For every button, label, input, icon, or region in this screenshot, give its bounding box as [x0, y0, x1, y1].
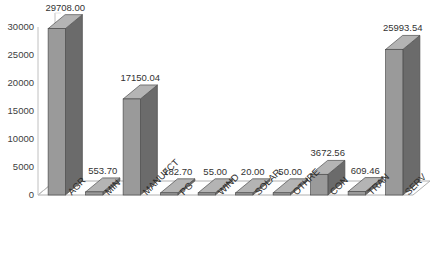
y-tick-25000: 25000 [0, 50, 34, 60]
y-tick-30000: 30000 [0, 22, 34, 32]
bar-chart: 050001000015000200002500030000 29708.005… [0, 0, 438, 256]
bar-side-face [403, 35, 420, 195]
bar-front-face [236, 193, 253, 195]
y-tick-20000: 20000 [0, 78, 34, 88]
bar-front-face [348, 192, 365, 195]
y-tick-10000: 10000 [0, 134, 34, 144]
bar-front-face [198, 193, 215, 195]
value-label-manufct: 17150.04 [110, 73, 170, 83]
bar-front-face [123, 99, 140, 195]
y-tick-0: 0 [0, 190, 34, 200]
bar-front-face [273, 193, 290, 195]
value-label-agr: 29708.00 [35, 3, 95, 13]
value-label-con: 3672.56 [298, 148, 358, 158]
chart-canvas [0, 0, 438, 256]
value-label-serv: 25993.54 [373, 23, 433, 33]
bar-front-face [48, 29, 65, 195]
y-tick-5000: 5000 [0, 162, 34, 172]
bar-front-face [86, 192, 103, 195]
y-tick-15000: 15000 [0, 106, 34, 116]
bar-front-face [161, 193, 178, 195]
value-label-min: 553.70 [73, 166, 133, 176]
